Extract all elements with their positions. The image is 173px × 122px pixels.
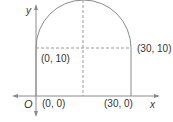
x-axis-label: x: [150, 100, 155, 110]
x-axis-right-arrow-icon: [154, 94, 160, 98]
point-label-0-0: (0, 0): [42, 99, 65, 109]
x-axis-left-arrow-icon: [12, 94, 18, 98]
y-axis-up-arrow-icon: [34, 4, 38, 10]
y-axis-down-arrow-icon: [34, 111, 38, 117]
point-label-0-10: (0, 10): [41, 54, 70, 64]
y-axis-label: y: [26, 6, 31, 16]
origin-label: O: [24, 99, 33, 110]
point-label-30-0: (30, 0): [104, 99, 133, 109]
point-label-30-10: (30, 10): [137, 44, 171, 54]
